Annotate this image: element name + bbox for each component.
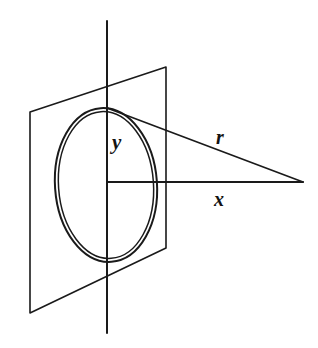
figure-canvas: y x r [0, 0, 318, 348]
plane-group [30, 67, 166, 313]
r-hypotenuse-line [107, 108, 303, 182]
geometry-diagram-svg [0, 0, 318, 348]
perspective-plane-parallelogram [30, 67, 166, 313]
label-x: x [214, 189, 224, 209]
label-y: y [112, 132, 121, 153]
label-r: r [216, 127, 224, 147]
